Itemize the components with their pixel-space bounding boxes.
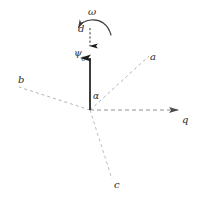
axis-c-ray: [90, 110, 112, 179]
label-axis-c: c: [114, 180, 120, 190]
label-axis-a: a: [150, 52, 156, 62]
figure-container: ω d ψ0 α a b c q: [0, 0, 200, 204]
label-omega: ω: [88, 7, 96, 17]
diagram-canvas: [0, 0, 200, 204]
label-psi-subscript: 0: [81, 55, 85, 62]
axis-b-ray: [19, 87, 90, 110]
axis-a-ray: [90, 56, 149, 110]
label-alpha-angle: α: [93, 92, 99, 101]
label-d: d: [78, 24, 84, 34]
label-psi-zero: ψ0: [74, 48, 86, 60]
label-axis-b: b: [18, 75, 24, 85]
label-axis-q: q: [182, 115, 188, 125]
